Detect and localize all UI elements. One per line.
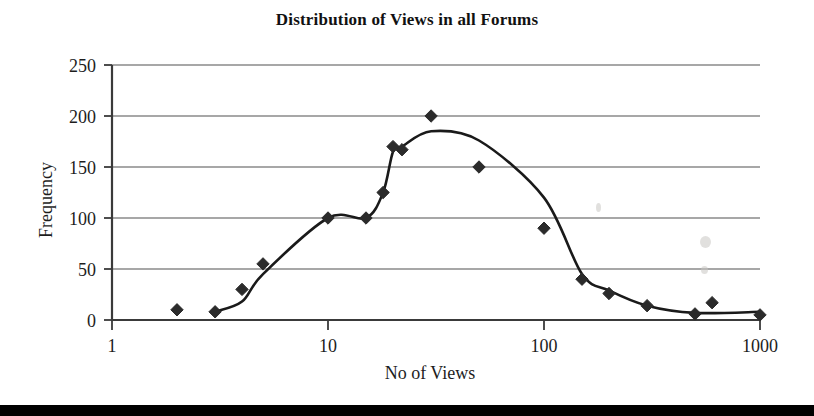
x-tick-label-1000: 1000 xyxy=(742,336,778,356)
page-bottom-black-band xyxy=(0,405,814,416)
y-tick-label-200: 200 xyxy=(69,107,96,127)
data-point-marker xyxy=(236,283,248,295)
data-point-marker xyxy=(641,300,653,312)
y-tick-label-100: 100 xyxy=(69,209,96,229)
trend-line xyxy=(215,131,760,313)
y-tick-label-0: 0 xyxy=(87,311,96,331)
scan-artifact-speck xyxy=(700,236,711,248)
data-point-markers xyxy=(171,110,766,321)
data-point-marker xyxy=(425,110,437,122)
data-point-marker xyxy=(689,308,701,320)
y-tick-label-150: 150 xyxy=(69,158,96,178)
data-point-marker xyxy=(706,297,718,309)
y-tick-label-250: 250 xyxy=(69,56,96,76)
data-point-marker xyxy=(377,186,389,198)
y-tick-label-50: 50 xyxy=(78,260,96,280)
x-tick-marks xyxy=(112,320,760,330)
gridlines xyxy=(112,65,760,269)
x-axis-title: No of Views xyxy=(385,363,476,383)
x-tick-label-100: 100 xyxy=(531,336,558,356)
chart-plot-area: 250 200 150 100 50 0 1 10 100 1000 No of… xyxy=(0,0,814,416)
figure-canvas: Distribution of Views in all Forums xyxy=(0,0,814,416)
data-point-marker xyxy=(538,222,550,234)
data-point-marker xyxy=(576,273,588,285)
scan-artifact-speck xyxy=(701,266,708,274)
data-point-marker xyxy=(209,306,221,318)
y-tick-marks xyxy=(104,65,112,320)
y-axis-title: Frequency xyxy=(36,162,56,238)
x-tick-label-1: 1 xyxy=(108,336,117,356)
data-point-marker xyxy=(473,161,485,173)
data-point-marker xyxy=(322,212,334,224)
scan-artifact-speck xyxy=(596,203,601,212)
data-point-marker xyxy=(171,304,183,316)
x-tick-label-10: 10 xyxy=(319,336,337,356)
